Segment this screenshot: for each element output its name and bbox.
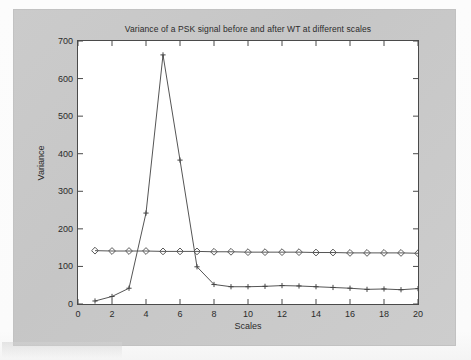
x-axis-label: Scales [77,321,419,331]
x-tick-label: 4 [143,309,148,319]
plot-area [77,40,419,305]
y-tick-label: 600 [58,74,73,84]
x-tick-label: 6 [177,309,182,319]
y-axis-tick-labels: 0100200300400500600700 [34,40,73,305]
y-tick-label: 700 [58,36,73,46]
x-tick-label: 8 [211,309,216,319]
y-tick-label: 300 [58,186,73,196]
y-tick-label: 100 [58,261,73,271]
y-tick-label: 200 [58,224,73,234]
x-tick-label: 16 [345,309,355,319]
series-line-2 [95,55,418,301]
x-tick-label: 12 [277,309,287,319]
x-tick-label: 0 [75,309,80,319]
x-axis-tick-labels: 02468101214161820 [77,306,419,322]
chart-title: Variance of a PSK signal before and afte… [77,24,419,34]
chart-canvas [78,41,418,304]
x-tick-label: 18 [379,309,389,319]
figure-panel: Variance of a PSK signal before and afte… [14,10,455,345]
y-tick-label: 0 [68,299,73,309]
x-tick-label: 14 [311,309,321,319]
x-tick-label: 10 [243,309,253,319]
y-tick-label: 400 [58,149,73,159]
x-tick-label: 20 [413,309,423,319]
y-tick-label: 500 [58,111,73,121]
scan-artifact [2,342,122,358]
x-tick-label: 2 [109,309,114,319]
